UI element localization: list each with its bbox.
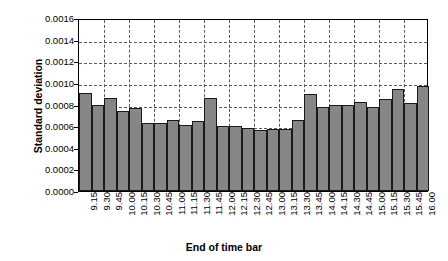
x-tick-label: 12.45 [263, 192, 274, 236]
y-axis-tick-labels: 0.00160.00140.00120.00100.00080.00060.00… [14, 0, 74, 261]
x-tick-label: 10.15 [138, 192, 149, 236]
y-tick-label: 0.0004 [18, 144, 74, 154]
y-tick-mark [74, 19, 78, 20]
y-tick-mark [74, 41, 78, 42]
x-tick-label: 12.15 [238, 192, 249, 236]
bar [417, 86, 430, 191]
y-tick-mark [74, 192, 78, 193]
y-tick-mark [74, 127, 78, 128]
x-tick-label: 15.15 [388, 192, 399, 236]
y-tick-label: 0.0014 [18, 36, 74, 46]
bar [167, 120, 180, 191]
horizontal-gridline [79, 85, 427, 86]
horizontal-gridline [79, 63, 427, 64]
x-tick-label: 10.00 [126, 192, 137, 236]
x-tick-label: 11.45 [213, 192, 224, 236]
bar [192, 121, 205, 191]
bar [217, 126, 230, 191]
horizontal-gridline [79, 42, 427, 43]
bar [254, 130, 267, 191]
y-tick-mark [74, 170, 78, 171]
x-axis-tick-labels: 9.159.309.4510.0010.1510.3010.4511.0011.… [78, 192, 428, 242]
y-tick-label: 0.0006 [18, 122, 74, 132]
bar [292, 120, 305, 191]
x-tick-label: 11.30 [201, 192, 212, 236]
x-tick-label: 9.30 [101, 192, 112, 236]
plot-area [78, 19, 428, 192]
x-tick-label: 13.45 [313, 192, 324, 236]
bar [229, 126, 242, 191]
y-tick-mark [74, 84, 78, 85]
bar [129, 108, 142, 191]
chart-figure: Standard deviation 0.00160.00140.00120.0… [0, 0, 448, 261]
bar [379, 99, 392, 191]
x-tick-label: 14.45 [363, 192, 374, 236]
x-tick-label: 13.15 [288, 192, 299, 236]
bar [117, 111, 130, 191]
x-tick-label: 11.00 [176, 192, 187, 236]
bar [142, 123, 155, 191]
x-tick-label: 14.00 [326, 192, 337, 236]
bar [404, 103, 417, 191]
x-tick-label: 9.15 [88, 192, 99, 236]
x-tick-label: 15.45 [413, 192, 424, 236]
bar [179, 125, 192, 191]
y-tick-label: 0.0000 [18, 187, 74, 197]
y-tick-label: 0.0010 [18, 79, 74, 89]
x-tick-label: 14.15 [338, 192, 349, 236]
x-tick-label: 11.15 [188, 192, 199, 236]
bar [104, 98, 117, 191]
x-tick-label: 12.30 [251, 192, 262, 236]
plot-inner [79, 20, 427, 191]
x-tick-label: 10.30 [151, 192, 162, 236]
y-tick-mark [74, 106, 78, 107]
x-tick-label: 13.30 [301, 192, 312, 236]
y-tick-mark [74, 62, 78, 63]
y-tick-label: 0.0012 [18, 57, 74, 67]
x-tick-label: 15.30 [401, 192, 412, 236]
y-tick-label: 0.0002 [18, 165, 74, 175]
bar [317, 107, 330, 191]
y-tick-mark [74, 149, 78, 150]
bar [392, 89, 405, 191]
bar [267, 129, 280, 191]
x-tick-label: 14.30 [351, 192, 362, 236]
bar [154, 123, 167, 191]
x-axis-title: End of time bar [0, 241, 448, 253]
x-tick-label: 9.45 [113, 192, 124, 236]
bar [342, 105, 355, 192]
bar [279, 129, 292, 191]
bar [329, 105, 342, 192]
x-tick-label: 15.00 [376, 192, 387, 236]
x-tick-label: 12.00 [226, 192, 237, 236]
bar [304, 94, 317, 191]
y-tick-label: 0.0008 [18, 101, 74, 111]
bar [242, 128, 255, 191]
bar [367, 107, 380, 191]
x-tick-label: 16.00 [426, 192, 437, 236]
bar [354, 102, 367, 191]
x-tick-label: 10.45 [163, 192, 174, 236]
bar [204, 98, 217, 191]
bar [92, 105, 105, 192]
y-tick-label: 0.0016 [18, 14, 74, 24]
x-tick-label: 13.00 [276, 192, 287, 236]
bar [79, 93, 92, 191]
